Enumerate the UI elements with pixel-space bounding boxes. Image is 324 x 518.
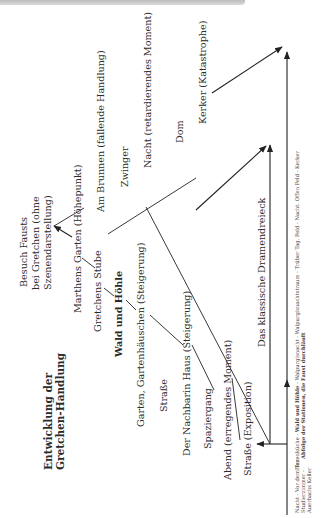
- scene-wald-und-hoehle: Wald und Höhle: [113, 271, 124, 358]
- falling-to-kerker: [212, 47, 282, 93]
- scene-kerker: Kerker (Katastrophe): [197, 21, 208, 124]
- gretchen-diagram: Entwicklung der Gretchen-Handlung Straße…: [0, 0, 324, 518]
- scene-nacht: Nacht (retardierendes Moment): [142, 12, 153, 168]
- scene-besuch-line1: Besuch Fausts: [18, 217, 29, 287]
- scene-nachbarin: Der Nachbarin Haus (Steigerung): [181, 291, 192, 456]
- rise-seg-3: [150, 315, 183, 345]
- scene-besuch-line2: bei Gretchen (ohne: [30, 196, 41, 290]
- scene-am-brunnen: Am Brunnen (fallende Handlung): [95, 50, 106, 213]
- scene-spaziergang: Spaziergang: [202, 388, 213, 449]
- rise-seg-2: [192, 345, 214, 390]
- diagram-title-line2: Gretchen-Handlung: [54, 352, 66, 470]
- rise-seg-1: [232, 378, 240, 440]
- diagram-title-line1: Entwicklung der: [42, 373, 54, 470]
- scene-abend: Abend (erregendes Moment): [222, 340, 233, 481]
- scene-gretchens-stube: Gretchens Stube: [92, 250, 103, 332]
- scene-strasse-exposition: Straße (Exposition): [242, 381, 253, 476]
- note-right-line2: Abfolge der Stationen, die Faust durchlä…: [300, 332, 307, 460]
- scene-garten: Garten, Gartenhäuschen (Steigerung): [135, 243, 146, 427]
- triangle-label: Das klassische Dramendreieck: [256, 197, 267, 347]
- scene-zwinger: Zwinger: [119, 146, 130, 187]
- note-left-line3: Auerbachs Keller: [306, 467, 312, 514]
- scene-marthens-garten: Marthens Garten (Höhepunkt): [72, 165, 83, 313]
- scene-besuch-line3: Szenendarstellung): [42, 195, 53, 290]
- scene-strasse: Straße: [158, 379, 169, 412]
- peak-arrow: [54, 226, 72, 237]
- scene-dom: Dom: [174, 120, 185, 143]
